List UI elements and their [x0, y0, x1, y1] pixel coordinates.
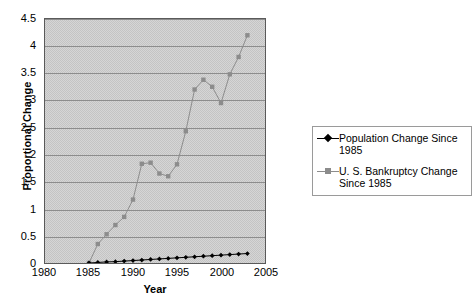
- data-point: [157, 257, 162, 262]
- data-point: [166, 256, 171, 261]
- legend-label-bankruptcy: U. S. Bankruptcy Change Since 1985: [339, 165, 457, 189]
- data-point: [245, 33, 249, 37]
- series-line: [89, 35, 247, 263]
- data-point: [140, 162, 144, 166]
- legend-item-population[interactable]: Population Change Since 1985: [317, 132, 467, 156]
- legend-item-bankruptcy[interactable]: U. S. Bankruptcy Change Since 1985: [317, 165, 467, 189]
- data-point: [227, 252, 232, 257]
- data-point: [148, 161, 152, 165]
- data-point: [175, 255, 180, 260]
- x-tick-1985: 1985: [76, 266, 100, 279]
- data-point: [139, 258, 144, 263]
- data-point: [219, 253, 224, 258]
- data-point: [236, 55, 240, 59]
- legend-label-population: Population Change Since 1985: [339, 132, 467, 156]
- x-tick-2000: 2000: [210, 266, 234, 279]
- data-point: [96, 242, 100, 246]
- data-point: [228, 72, 232, 76]
- plot-area: [44, 18, 266, 264]
- data-point: [236, 252, 241, 257]
- data-point: [219, 101, 223, 105]
- data-point: [192, 87, 196, 91]
- y-axis-title: Proportional Change: [21, 46, 33, 226]
- legend-marker-diamond-icon: [317, 133, 339, 145]
- data-point: [192, 254, 197, 259]
- data-point: [95, 260, 100, 263]
- y-tick-0.5: 0.5: [21, 231, 36, 242]
- series-bankruptcy: [87, 33, 250, 263]
- x-tick-1995: 1995: [165, 266, 189, 279]
- data-point: [157, 171, 161, 175]
- x-tick-1980: 1980: [32, 266, 56, 279]
- data-point: [104, 260, 109, 263]
- data-point: [131, 258, 136, 263]
- data-point: [201, 78, 205, 82]
- data-point: [104, 232, 108, 236]
- data-point: [183, 255, 188, 260]
- x-tick-1990: 1990: [121, 266, 145, 279]
- data-point: [245, 251, 250, 256]
- y-tick-4.5: 4.5: [21, 13, 36, 24]
- legend-marker-square-icon: [317, 166, 339, 178]
- data-point: [175, 162, 179, 166]
- x-axis-tick-labels: 1980 1985 1990 1995 2000 2005: [0, 266, 476, 282]
- data-point: [122, 259, 127, 263]
- data-point: [210, 253, 215, 258]
- series-population: [87, 251, 250, 263]
- x-axis-title: Year: [44, 283, 266, 295]
- x-tick-2005: 2005: [254, 266, 278, 279]
- data-point: [184, 129, 188, 133]
- data-point: [131, 197, 135, 201]
- series-plot: [45, 19, 265, 263]
- data-point: [201, 254, 206, 259]
- data-point: [113, 223, 117, 227]
- data-point: [148, 257, 153, 262]
- chart-legend: Population Change Since 1985 U. S. Bankr…: [312, 126, 472, 196]
- data-point: [210, 85, 214, 89]
- chart-root: 4.5 4 3.5 3 2.5 2 1.5 1 0.5 0 Proportion…: [0, 0, 476, 301]
- data-point: [113, 259, 118, 263]
- y-axis-tick-labels: 4.5 4 3.5 3 2.5 2 1.5 1 0.5 0: [0, 0, 40, 301]
- data-point: [166, 174, 170, 178]
- data-point: [122, 215, 126, 219]
